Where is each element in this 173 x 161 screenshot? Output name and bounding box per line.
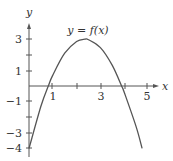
y-tick-label-neg1: −1	[6, 95, 22, 108]
y-tick-label-neg4: −4	[6, 142, 22, 155]
y-axis-arrow-icon	[27, 23, 31, 29]
y-tick-label-1: 1	[15, 65, 22, 78]
y-tick-label-neg3: −3	[6, 127, 22, 140]
y-tick-label-3: 3	[15, 33, 22, 46]
graph-canvas: 3 1 −1 −3 −4 1 3 5 y x y = f(x)	[0, 0, 173, 161]
x-axis-label: x	[162, 80, 169, 93]
curve-label: y = f(x)	[66, 24, 108, 37]
y-axis-label: y	[25, 6, 33, 19]
x-axis-arrow-icon	[153, 84, 159, 88]
x-tick-label-3: 3	[98, 90, 105, 103]
x-tick-label-5: 5	[144, 90, 151, 103]
x-tick-label-1: 1	[50, 90, 57, 103]
function-curve	[29, 39, 142, 149]
